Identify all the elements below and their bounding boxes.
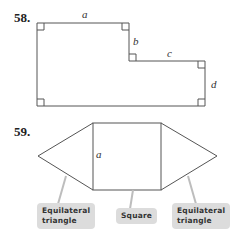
label-a-58: a — [82, 8, 88, 20]
callout-text-line1: Equilateral — [177, 206, 225, 216]
label-d: d — [211, 78, 217, 90]
callout-text-line1: Square — [121, 211, 152, 221]
callout-text-line2: triangle — [177, 216, 225, 226]
label-c: c — [167, 47, 172, 59]
l-shape-figure — [37, 23, 205, 106]
callout-text-line1: Equilateral — [42, 206, 90, 216]
callout-equilateral-triangle-left: Equilateral triangle — [37, 203, 95, 229]
callout-square: Square — [116, 208, 157, 224]
callout-text-line2: triangle — [42, 216, 90, 226]
callout-equilateral-triangle-right: Equilateral triangle — [172, 203, 230, 229]
label-a-59: a — [96, 148, 102, 160]
label-b: b — [133, 35, 139, 47]
